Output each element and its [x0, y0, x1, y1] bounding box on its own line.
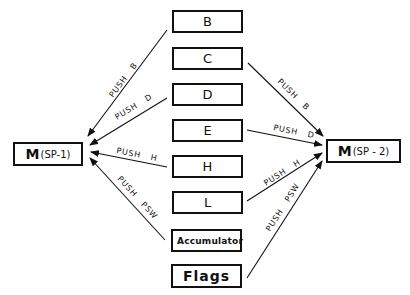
register-d: D — [172, 83, 243, 106]
register-label: H — [203, 159, 213, 174]
arrow-label: PUSH PSW — [116, 174, 160, 221]
arrow-label: PUSH H — [262, 158, 302, 188]
register-accumulator: Accumulator — [171, 229, 242, 252]
memory-sp-minus-1: M (SP-1) — [13, 142, 83, 166]
register-label: B — [203, 14, 212, 29]
arrow-label: PUSH D — [113, 92, 154, 122]
register-e: E — [172, 119, 243, 142]
arrow-push-psw-left: PUSH PSW — [90, 158, 165, 240]
memory-label: M — [338, 143, 352, 159]
arrow-label: PUSH PSW — [264, 182, 301, 233]
push-operation-diagram: PUSH B PUSH D PUSH H PUSH PSW PUSH B PUS… — [0, 0, 410, 295]
register-label: C — [203, 51, 212, 66]
arrow-push-d-right: PUSH D — [247, 123, 322, 145]
arrow-push-b-left: PUSH B — [88, 30, 167, 136]
arrow-push-h-right: PUSH H — [247, 153, 322, 201]
register-l: L — [172, 191, 243, 214]
register-label: E — [203, 123, 211, 138]
memory-address: (SP-1) — [41, 149, 71, 160]
register-c: C — [172, 47, 243, 70]
register-b: B — [172, 10, 243, 33]
register-label: L — [204, 195, 211, 210]
register-h: H — [172, 155, 243, 178]
memory-sp-minus-2: M (SP - 2) — [326, 139, 401, 163]
register-label: D — [202, 87, 212, 102]
memory-address: (SP - 2) — [353, 146, 390, 157]
arrow-push-h-left: PUSH H — [91, 146, 167, 167]
arrow-label: PUSH B — [107, 61, 139, 99]
register-flags: Flags — [171, 264, 242, 288]
arrow-push-psw-right: PUSH PSW — [247, 161, 322, 278]
arrow-label: PUSH D — [273, 123, 316, 140]
register-label: Accumulator — [177, 236, 243, 246]
register-label: Flags — [183, 268, 230, 284]
memory-label: M — [26, 146, 40, 162]
